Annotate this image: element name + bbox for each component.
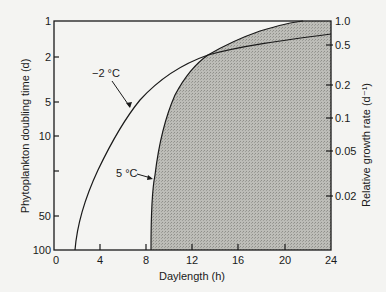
shaded-region-5c	[151, 21, 331, 250]
arrowhead-minus2c	[126, 102, 132, 108]
svg-text:16: 16	[232, 254, 244, 266]
svg-text:1: 1	[45, 15, 51, 27]
bottom-axis-labels: 0 4 8 12 16 20 24	[53, 254, 337, 266]
svg-text:20: 20	[279, 254, 291, 266]
svg-text:0.2: 0.2	[335, 79, 350, 91]
svg-text:0.05: 0.05	[335, 145, 356, 157]
x-axis-title: Daylength (h)	[159, 270, 225, 282]
y-axis-title: Phytoplankton doubling time (d)	[19, 59, 31, 214]
arrowhead-5c	[147, 175, 153, 180]
svg-text:10: 10	[39, 130, 51, 142]
right-axis-labels: 1.0 0.5 0.2 0.1 0.05 0.02	[335, 15, 356, 202]
left-axis-ticks	[54, 57, 59, 216]
svg-text:0.5: 0.5	[335, 39, 350, 51]
annotation-minus2c: −2 °C	[92, 67, 120, 79]
svg-text:8: 8	[143, 254, 149, 266]
svg-text:0: 0	[53, 254, 59, 266]
svg-text:0.1: 0.1	[335, 112, 350, 124]
y-right-axis-title: Relative growth rate (d⁻¹)	[360, 83, 372, 207]
svg-text:1.0: 1.0	[335, 15, 350, 27]
svg-text:50: 50	[39, 210, 51, 222]
svg-text:12: 12	[186, 254, 198, 266]
left-axis-labels: 1 2 5 10 50 100	[33, 15, 51, 256]
svg-text:100: 100	[33, 244, 51, 256]
svg-text:5: 5	[45, 96, 51, 108]
svg-text:2: 2	[45, 51, 51, 63]
svg-text:4: 4	[97, 254, 103, 266]
growth-chart: 1 2 5 10 50 100 0 4 8 12 16 20 24 1.0 0.…	[0, 0, 386, 292]
svg-text:24: 24	[325, 254, 337, 266]
annotation-5c: 5 °C	[116, 167, 138, 179]
svg-text:0.02: 0.02	[335, 190, 356, 202]
